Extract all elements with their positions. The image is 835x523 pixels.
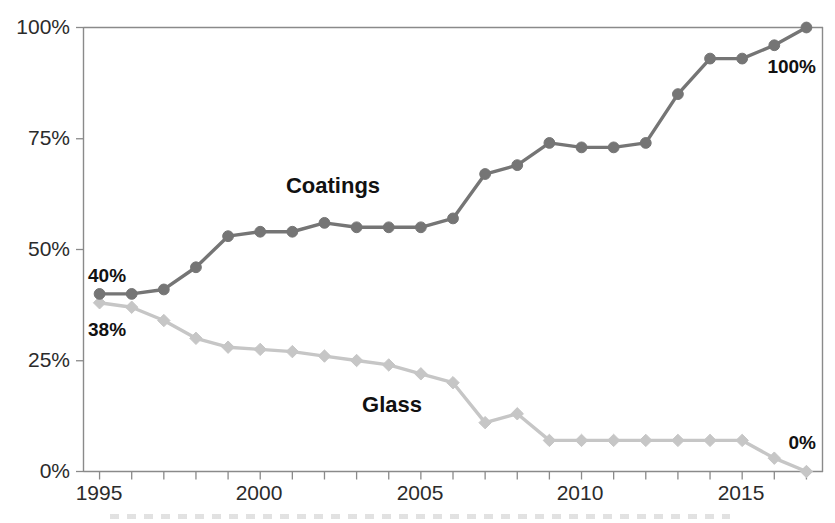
plot-frame: [84, 27, 824, 472]
x-axis-labels: 1995 2000 2005 2010 2015: [76, 481, 765, 504]
data-point-coatings-2010: [576, 142, 587, 153]
series-label-coatings: Coatings: [286, 173, 380, 198]
data-point-coatings-2008: [512, 160, 523, 171]
data-point-coatings-2014: [705, 53, 716, 64]
y-tick-label-100: 100%: [16, 15, 70, 38]
x-axis-ticks: [100, 472, 807, 480]
x-tick-label-2010: 2010: [557, 481, 604, 504]
data-point-glass-2010: [575, 434, 587, 446]
data-point-glass-2004: [383, 359, 395, 371]
data-point-glass-2017: [800, 465, 812, 477]
data-point-coatings-2017: [801, 22, 812, 33]
series-label-glass: Glass: [362, 392, 422, 417]
data-point-glass-1997: [158, 314, 170, 326]
data-point-coatings-2012: [640, 138, 651, 149]
line-path-coatings: [100, 28, 807, 294]
data-point-coatings-2002: [319, 217, 330, 228]
series-name-labels: Coatings Glass: [286, 173, 422, 417]
data-point-coatings-1997: [158, 284, 169, 295]
data-point-coatings-2013: [673, 89, 684, 100]
data-point-coatings-2011: [608, 142, 619, 153]
data-point-glass-2005: [415, 368, 427, 380]
data-point-coatings-2005: [415, 222, 426, 233]
line-chart: 100% 75% 50% 25% 0% 1995 2000 2005 2010 …: [0, 0, 835, 523]
data-point-glass-2000: [254, 343, 266, 355]
y-tick-label-0: 0%: [40, 459, 70, 482]
data-point-coatings-2004: [383, 222, 394, 233]
y-tick-label-25: 25%: [28, 348, 70, 371]
y-tick-label-50: 50%: [28, 237, 70, 260]
data-point-glass-2012: [640, 434, 652, 446]
annotation-glass-start: 38%: [88, 319, 126, 340]
chart-canvas: 100% 75% 50% 25% 0% 1995 2000 2005 2010 …: [0, 0, 835, 523]
data-point-coatings-1999: [223, 231, 234, 242]
data-point-glass-2011: [607, 434, 619, 446]
x-tick-label-2005: 2005: [397, 481, 444, 504]
data-point-glass-2001: [286, 345, 298, 357]
data-point-coatings-2006: [448, 213, 459, 224]
data-point-coatings-2001: [287, 226, 298, 237]
data-point-glass-2002: [318, 350, 330, 362]
x-tick-label-2000: 2000: [236, 481, 283, 504]
series-glass: [93, 297, 812, 478]
series-coatings: [94, 22, 812, 299]
footer-caption-fragment: [110, 514, 730, 519]
data-point-coatings-2009: [544, 138, 555, 149]
y-axis-ticks: [76, 28, 84, 472]
data-point-glass-2013: [672, 434, 684, 446]
value-annotations: 40% 38% 100% 0%: [88, 56, 816, 453]
x-tick-label-1995: 1995: [76, 481, 123, 504]
data-point-coatings-2000: [255, 226, 266, 237]
data-point-coatings-2003: [351, 222, 362, 233]
data-point-glass-2014: [704, 434, 716, 446]
annotation-coatings-start: 40%: [88, 265, 126, 286]
annotation-coatings-end: 100%: [767, 56, 816, 77]
data-point-coatings-1995: [94, 289, 105, 300]
data-point-coatings-2015: [737, 53, 748, 64]
annotation-glass-end: 0%: [789, 432, 817, 453]
data-point-coatings-2007: [480, 169, 491, 180]
data-point-glass-1999: [222, 341, 234, 353]
data-point-glass-2016: [768, 452, 780, 464]
data-point-glass-1996: [125, 301, 137, 313]
data-point-glass-2003: [350, 354, 362, 366]
data-point-coatings-1996: [126, 289, 137, 300]
data-point-coatings-1998: [191, 262, 202, 273]
data-point-coatings-2016: [769, 40, 780, 51]
y-axis-labels: 100% 75% 50% 25% 0%: [16, 15, 70, 482]
x-tick-label-2015: 2015: [718, 481, 765, 504]
y-tick-label-75: 75%: [28, 126, 70, 149]
